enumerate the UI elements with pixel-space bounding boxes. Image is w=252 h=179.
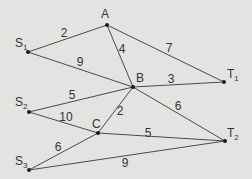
edge-weight: 5 xyxy=(69,88,76,102)
node-label-s3: S3 xyxy=(15,154,28,170)
node-label-b: B xyxy=(136,71,144,85)
node-b xyxy=(131,85,135,89)
edge-weight: 10 xyxy=(59,110,73,124)
edge-weight: 6 xyxy=(55,140,62,154)
edge-weight: 7 xyxy=(166,41,173,55)
node-s3 xyxy=(27,168,31,172)
edge-weight: 4 xyxy=(119,42,126,56)
edge-weight: 9 xyxy=(122,156,129,170)
weighted-graph-diagram: 2947351026569 AS1BT1S2CS3T2 xyxy=(0,0,252,179)
node-label-a: A xyxy=(101,7,109,21)
node-t1 xyxy=(222,80,226,84)
edge-weight: 5 xyxy=(145,126,152,140)
node-label-s2: S2 xyxy=(15,95,28,111)
node-label-t1: T1 xyxy=(227,67,239,83)
edge-weight: 3 xyxy=(168,72,175,86)
edge-weight: 9 xyxy=(77,55,84,69)
edge-weight: 2 xyxy=(61,26,68,40)
node-label-t2: T2 xyxy=(227,126,239,142)
node-label-c: C xyxy=(92,117,101,131)
edge-weight: 2 xyxy=(117,104,124,118)
edge-s1-a xyxy=(28,25,107,52)
edge-c-t2 xyxy=(98,133,225,141)
edge-weight: 6 xyxy=(175,99,182,113)
node-c xyxy=(96,131,100,135)
edge-weights: 2947351026569 xyxy=(55,26,182,170)
edge-a-b xyxy=(107,25,133,87)
node-a xyxy=(105,23,109,27)
edge-b-t1 xyxy=(133,82,224,87)
node-s2 xyxy=(27,110,31,114)
node-label-s1: S1 xyxy=(15,36,28,52)
